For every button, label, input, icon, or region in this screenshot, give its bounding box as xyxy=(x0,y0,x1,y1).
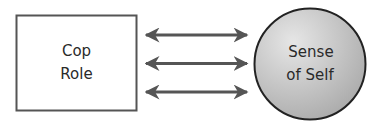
cop-role-node: Cop Role xyxy=(17,16,137,111)
connections xyxy=(146,35,247,92)
sense-of-self-label-line-1: Sense xyxy=(288,43,333,61)
cop-role-label-line-2: Role xyxy=(60,65,92,83)
sense-of-self-node: Sense of Self xyxy=(255,9,366,120)
diagram-canvas: Cop Role Sense of Self xyxy=(0,0,380,127)
cop-role-box xyxy=(17,16,137,111)
cop-role-label-line-1: Cop xyxy=(62,42,91,60)
sense-of-self-label-line-2: of Self xyxy=(286,66,334,84)
sense-of-self-circle xyxy=(255,9,366,120)
